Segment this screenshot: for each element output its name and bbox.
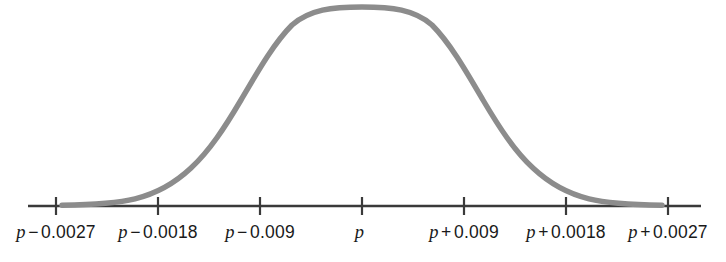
tick-label-1: p−0.0018 (118, 221, 198, 243)
tick-operator: + (638, 222, 653, 242)
tick-operator: + (536, 222, 551, 242)
tick-number: 0.0018 (143, 222, 198, 242)
tick-operator: + (439, 222, 454, 242)
tick-number: 0.0027 (653, 222, 708, 242)
tick-operator: − (128, 222, 143, 242)
tick-number: 0.0018 (551, 222, 606, 242)
tick-number: 0.0027 (41, 222, 96, 242)
normal-curve-figure: p−0.0027 p−0.0018 p−0.009 p p+0.009 p+0.… (0, 0, 726, 262)
tick-number: 0.009 (250, 222, 295, 242)
tick-label-2: p−0.009 (225, 221, 295, 243)
tick-operator (364, 222, 369, 242)
tick-label-3: p (355, 221, 369, 243)
tick-operator: − (235, 222, 250, 242)
tick-label-0: p−0.0027 (16, 221, 96, 243)
tick-label-5: p+0.0018 (526, 221, 606, 243)
tick-label-6: p+0.0027 (628, 221, 708, 243)
tick-label-4: p+0.009 (429, 221, 499, 243)
tick-label-row: p−0.0027 p−0.0018 p−0.009 p p+0.009 p+0.… (0, 221, 726, 255)
tick-number: 0.009 (454, 222, 499, 242)
tick-operator: − (26, 222, 41, 242)
bell-curve-path (62, 7, 662, 205)
